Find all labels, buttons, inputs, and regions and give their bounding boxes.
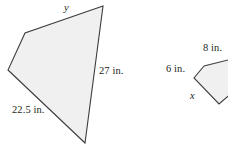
side-label-y: y — [64, 3, 69, 14]
side-label-27-in: 27 in. — [99, 66, 124, 77]
side-label-8-in: 8 in. — [203, 43, 222, 54]
side-label-22-5-in: 22.5 in. — [12, 105, 45, 116]
side-label-6-in: 6 in. — [166, 64, 185, 75]
side-label-x: x — [190, 91, 195, 102]
